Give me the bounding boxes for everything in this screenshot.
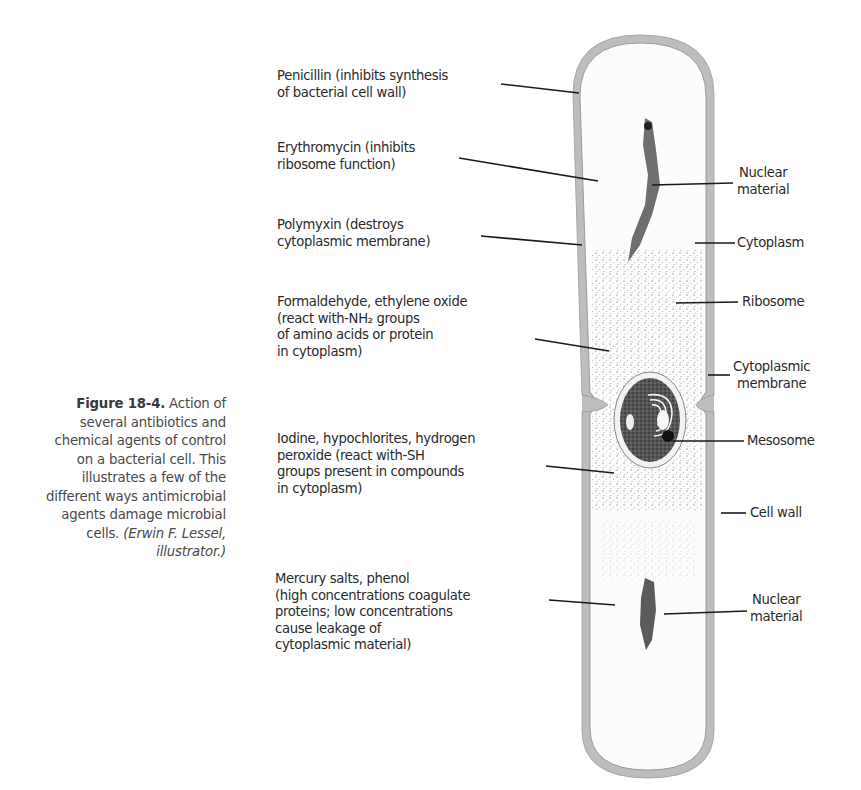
label-penicillin: Penicillin (inhibits synthesis of bacter… [277, 68, 448, 101]
label-cell-wall: Cell wall [750, 505, 802, 522]
label-line: cytoplasmic material) [275, 637, 411, 652]
illustrator-credit: (Erwin F. Lessel, [123, 526, 226, 541]
label-cytoplasm: Cytoplasm [737, 235, 804, 252]
label-line: Cytoplasmic [733, 359, 810, 374]
label-line: Ribosome [742, 294, 804, 309]
label-line: Mercury salts, phenol [275, 571, 409, 586]
illustrator-credit: illustrator.) [156, 544, 226, 559]
label-line: Cytoplasm [737, 235, 804, 250]
label-nuclear-material-bottom: Nuclear material [750, 592, 802, 625]
label-polymyxin: Polymyxin (destroys cytoplasmic membrane… [277, 217, 430, 250]
label-line: Nuclear [752, 592, 800, 607]
caption-line: chemical agents of control [55, 433, 226, 448]
label-nuclear-material-top: Nuclear material [737, 165, 789, 198]
label-erythromycin: Erythromycin (inhibits ribosome function… [277, 140, 415, 173]
label-line: material [750, 609, 802, 624]
label-mercury: Mercury salts, phenol (high concentratio… [275, 571, 470, 654]
label-line: proteins; low concentrations [275, 604, 453, 619]
label-iodine: Iodine, hypochlorites, hydrogen peroxide… [277, 431, 475, 497]
caption-line: illustrates a few of the [82, 470, 226, 485]
label-line: in cytoplasm) [277, 481, 362, 496]
caption-line: on a bacterial cell. This [77, 452, 226, 467]
label-line: material [737, 182, 789, 197]
figure-caption: Figure 18-4. Action of several antibioti… [0, 395, 226, 562]
label-line: peroxide (react with-SH [277, 448, 424, 463]
caption-line: different ways antimicrobial [46, 489, 226, 504]
label-line: Nuclear [739, 165, 787, 180]
label-line: in cytoplasm) [277, 344, 362, 359]
label-line: (high concentrations coagulate [275, 588, 470, 603]
label-line: groups present in compounds [277, 464, 464, 479]
caption-line: cells. [86, 526, 123, 541]
label-line: cytoplasmic membrane) [277, 234, 430, 249]
caption-line: agents damage microbial [61, 507, 226, 522]
label-line: of bacterial cell wall) [277, 85, 406, 100]
label-line: Penicillin (inhibits synthesis [277, 68, 448, 83]
label-ribosome: Ribosome [742, 294, 804, 311]
figure-number: Figure 18-4. [76, 396, 165, 411]
label-line: Formaldehyde, ethylene oxide [277, 294, 467, 309]
label-mesosome: Mesosome [747, 433, 815, 450]
label-line: (react with-NH₂ groups [277, 311, 420, 326]
label-line: Polymyxin (destroys [277, 217, 404, 232]
label-line: Iodine, hypochlorites, hydrogen [277, 431, 475, 446]
label-line: Mesosome [747, 433, 815, 448]
label-formaldehyde: Formaldehyde, ethylene oxide (react with… [277, 294, 467, 360]
label-line: Cell wall [750, 505, 802, 520]
caption-line: Action of [165, 396, 226, 411]
label-line: of amino acids or protein [277, 327, 433, 342]
label-line: membrane [737, 376, 806, 391]
label-line: Erythromycin (inhibits [277, 140, 415, 155]
label-line: ribosome function) [277, 157, 395, 172]
label-line: cause leakage of [275, 621, 381, 636]
label-cytoplasmic-membrane: Cytoplasmic membrane [733, 359, 810, 392]
caption-line: several antibiotics and [80, 415, 226, 430]
